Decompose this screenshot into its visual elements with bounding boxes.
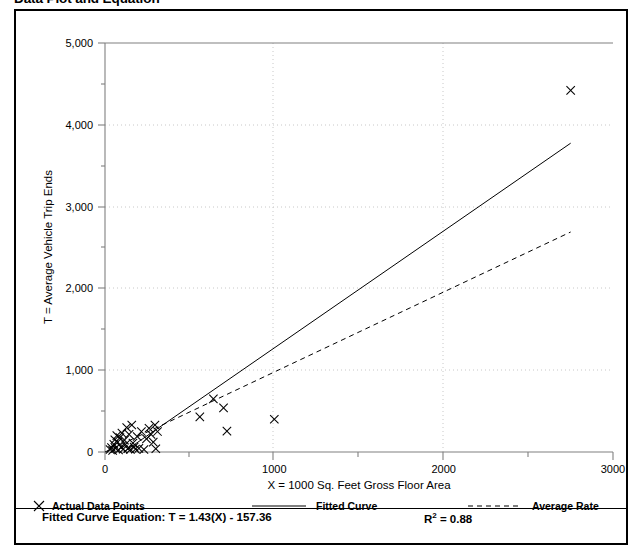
page-title: Data Plot and Equation: [14, 0, 160, 6]
x-tick-label: 3000: [601, 463, 625, 475]
data-point-marker: [209, 395, 217, 403]
x-tick-label: 2000: [431, 463, 455, 475]
y-tick-label: 1,000: [65, 364, 93, 376]
legend-marker-x: [34, 501, 44, 511]
data-point-marker: [219, 404, 227, 412]
plot-area: 01,0002,0003,0004,0005,000 0100020003000…: [16, 11, 630, 547]
data-point-marker: [270, 415, 278, 423]
chart-panel: 01,0002,0003,0004,0005,000 0100020003000…: [14, 9, 628, 545]
data-point-marker: [566, 86, 574, 94]
x-axis-title: X = 1000 Sq. Feet Gross Floor Area: [267, 479, 451, 491]
fitted-curve-equation: Fitted Curve Equation: T = 1.43(X) - 157…: [42, 511, 272, 523]
x-axis-ticks: [105, 452, 613, 460]
y-axis-ticks: [98, 43, 105, 452]
x-tick-label: 0: [102, 463, 108, 475]
r-squared-value: R2 = 0.88: [424, 511, 472, 525]
x-tick-labels: 0100020003000: [102, 463, 625, 475]
data-plot-svg: 01,0002,0003,0004,0005,000 0100020003000…: [16, 11, 626, 543]
average-rate-line: [105, 232, 571, 452]
fitted-curve-line: [124, 143, 571, 452]
data-point-marker: [196, 413, 204, 421]
data-point-marker: [125, 430, 133, 438]
y-axis-title: T = Average Vehicle Trip Ends: [42, 170, 54, 324]
x-tick-label: 1000: [262, 463, 286, 475]
y-tick-label: 3,000: [65, 201, 93, 213]
data-point-marker: [223, 427, 231, 435]
y-tick-label: 4,000: [65, 119, 93, 131]
footer-divider: [16, 508, 626, 509]
r-squared-number: = 0.88: [437, 513, 473, 525]
y-tick-labels: 01,0002,0003,0004,0005,000: [65, 37, 93, 458]
actual-data-points: [106, 86, 575, 454]
y-tick-label: 0: [87, 446, 93, 458]
equation-row: Fitted Curve Equation: T = 1.43(X) - 157…: [16, 511, 626, 531]
y-tick-label: 5,000: [65, 37, 93, 49]
y-tick-label: 2,000: [65, 282, 93, 294]
